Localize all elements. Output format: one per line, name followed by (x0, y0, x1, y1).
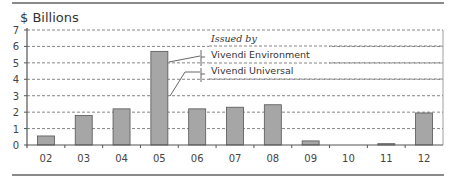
leader-universal (170, 72, 200, 96)
legend-entry-environment: Vivendi Environment (211, 49, 310, 60)
bar-06 (189, 109, 206, 145)
y-tick-label: 6 (13, 41, 19, 52)
y-tick-label: 1 (13, 124, 19, 135)
x-tick-label: 04 (115, 153, 128, 164)
bar-12 (416, 113, 433, 145)
x-tick-label: 03 (77, 153, 90, 164)
bar-08 (264, 105, 281, 145)
legend-heading: Issued by (210, 33, 257, 44)
leader-environment (169, 56, 200, 62)
x-tick-label: 07 (229, 153, 242, 164)
bar-02 (37, 136, 54, 145)
y-tick-label: 7 (13, 25, 19, 36)
y-tick-label: 3 (13, 91, 19, 102)
y-tick-label: 2 (13, 107, 19, 118)
y-tick-label: 0 (13, 140, 19, 151)
bar-09 (302, 141, 319, 145)
bar-05 (151, 51, 168, 145)
bar-chart: $ Billions012345670203040506070809101112… (0, 0, 457, 178)
x-tick-label: 10 (342, 153, 355, 164)
x-tick-label: 11 (380, 153, 393, 164)
y-tick-label: 5 (13, 58, 19, 69)
x-tick-label: 05 (153, 153, 166, 164)
x-tick-label: 06 (191, 153, 204, 164)
legend-entry-universal: Vivendi Universal (211, 65, 294, 76)
x-tick-label: 08 (266, 153, 279, 164)
y-tick-label: 4 (13, 74, 19, 85)
x-tick-label: 02 (40, 153, 53, 164)
bottom-rule (12, 174, 444, 176)
bar-04 (113, 109, 130, 145)
x-tick-label: 09 (304, 153, 317, 164)
x-tick-label: 12 (418, 153, 431, 164)
chart-title: $ Billions (20, 10, 79, 25)
bar-03 (75, 115, 92, 145)
bar-07 (227, 107, 244, 145)
